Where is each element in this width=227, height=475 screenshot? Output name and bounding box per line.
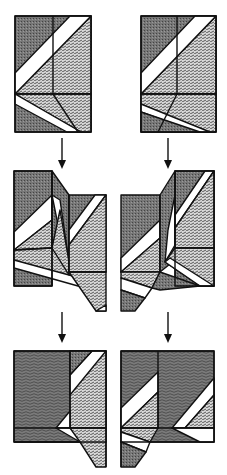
- step-3-right: [121, 351, 214, 467]
- step-3-left: [14, 351, 106, 467]
- step-2-right: [121, 171, 214, 311]
- arrow-down-icon: [58, 312, 66, 343]
- arrow-down-icon: [164, 138, 172, 169]
- step-1-left: [15, 16, 91, 132]
- step-2-left: [14, 171, 106, 311]
- step-1-right: [141, 16, 216, 132]
- arrow-down-icon: [58, 138, 66, 169]
- origami-diagram: [0, 0, 227, 475]
- arrow-down-icon: [164, 312, 172, 343]
